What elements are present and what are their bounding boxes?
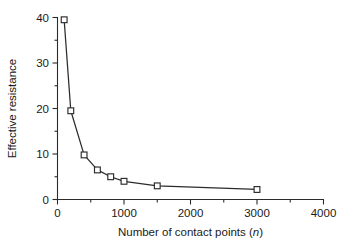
data-point-marker — [61, 17, 67, 23]
x-tick-label-3000: 3000 — [244, 207, 270, 219]
x-axis-title-text: Number of contact points ( — [118, 226, 253, 238]
x-tick-label-4000: 4000 — [311, 207, 337, 219]
data-point-marker — [121, 178, 127, 184]
y-tick-label-0: 0 — [43, 194, 49, 206]
y-axis-title: Effective resistance — [6, 59, 18, 159]
x-axis-title-paren: ) — [259, 226, 263, 238]
data-point-marker — [81, 152, 87, 158]
data-point-marker — [68, 108, 74, 114]
data-point-marker — [108, 174, 114, 180]
data-point-marker — [254, 187, 260, 193]
y-tick-label-10: 10 — [36, 148, 49, 160]
x-tick-label-2000: 2000 — [178, 207, 204, 219]
x-axis-title: Number of contact points (n) — [118, 226, 263, 238]
x-tick-label-0: 0 — [54, 207, 60, 219]
y-tick-label-30: 30 — [36, 57, 49, 69]
y-tick-label-40: 40 — [36, 12, 49, 24]
data-point-marker — [154, 183, 160, 189]
x-tick-label-1000: 1000 — [111, 207, 137, 219]
chart-figure: 010203040 01000200030004000 Number of co… — [0, 0, 357, 250]
effective-resistance-line-chart: 010203040 01000200030004000 Number of co… — [0, 0, 357, 250]
data-point-marker — [95, 167, 101, 173]
y-tick-label-20: 20 — [36, 103, 49, 115]
